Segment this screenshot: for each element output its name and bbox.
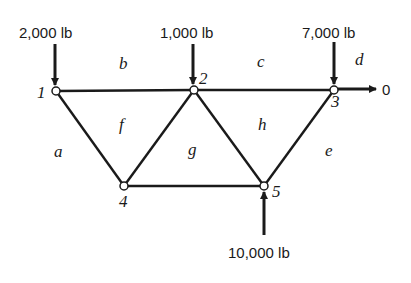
load-label-horizontal-3: 0 [382, 81, 390, 98]
node-label-1: 1 [37, 83, 46, 102]
region-label-e: e [325, 141, 333, 160]
member-1-2 [56, 90, 194, 91]
region-label-c: c [257, 52, 265, 71]
load-label-node-2: 1,000 lb [160, 24, 213, 41]
node-label-3: 3 [330, 92, 340, 111]
region-label-h: h [258, 115, 267, 134]
region-label-g: g [188, 140, 197, 159]
joint-2 [190, 86, 198, 94]
joint-5 [260, 182, 268, 190]
region-label-f: f [119, 115, 126, 134]
region-label-b: b [119, 54, 128, 73]
node-label-2: 2 [199, 69, 208, 88]
load-label-node-5: 10,000 lb [228, 244, 290, 261]
node-label-5: 5 [272, 182, 281, 201]
node-label-4: 4 [119, 192, 128, 211]
member-4-2 [124, 90, 194, 186]
member-2-5 [194, 90, 264, 186]
load-label-node-3: 7,000 lb [302, 24, 355, 41]
region-label-d: d [355, 50, 364, 69]
joint-4 [120, 182, 128, 190]
member-1-4 [56, 91, 124, 186]
region-label-a: a [54, 142, 63, 161]
load-label-node-1: 2,000 lb [19, 24, 72, 41]
member-5-3 [264, 90, 334, 186]
truss-members [56, 90, 334, 186]
load-arrows [55, 42, 376, 235]
truss-diagram: 2,000 lb 1,000 lb 7,000 lb 10,000 lb 0 1… [0, 0, 411, 283]
joints [52, 86, 338, 190]
joint-1 [52, 87, 60, 95]
